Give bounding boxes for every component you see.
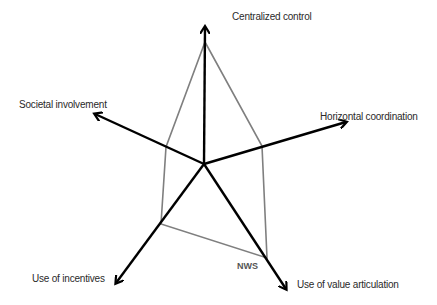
axis-arrow-horizontal: [204, 122, 346, 164]
axis-arrow-centralized: [204, 27, 205, 164]
axis-arrow-societal: [95, 114, 204, 164]
axis-label-use-of-incentives: Use of incentives: [32, 273, 105, 284]
axis-label-centralized-control: Centralized control: [232, 11, 312, 22]
axes-group: [95, 27, 346, 289]
axis-label-value-articulation: Use of value articulation: [297, 279, 399, 290]
axis-label-societal-involvement: Societal involvement: [19, 99, 107, 110]
axis-arrow-incentives: [116, 164, 204, 283]
radar-diagram: [0, 0, 437, 305]
axis-label-horizontal-coordination: Horizontal coordination: [320, 111, 418, 122]
series-label-nws: NWS: [237, 261, 258, 271]
